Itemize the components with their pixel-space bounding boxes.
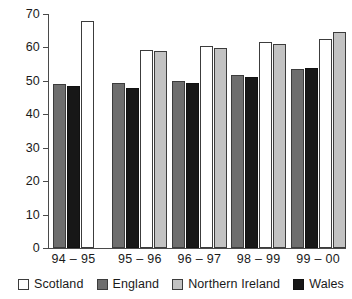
bar-nireland[interactable] [273,44,286,248]
y-tick-mark [43,215,48,216]
bar-nireland[interactable] [333,32,346,248]
bar-wales[interactable] [305,68,318,249]
legend-label: England [113,277,160,291]
bar-scotland[interactable] [81,21,94,248]
bar-group [168,14,227,248]
y-tick-mark [43,47,48,48]
bar-nireland[interactable] [154,51,167,248]
x-axis-category-labels: 94 – 9595 – 9696 – 9798 – 9999 – 00 [49,252,346,270]
bar-scotland[interactable] [259,42,272,248]
legend-swatch-icon [18,279,29,290]
bar-group [108,14,167,248]
y-tick-label: 0 [33,241,40,255]
x-axis-label: 96 – 97 [177,252,221,266]
bar-england[interactable] [172,81,185,248]
bar-nireland[interactable] [214,48,227,248]
bar-group [287,14,346,248]
bar-scotland[interactable] [140,50,153,248]
bar-group [49,14,108,248]
legend-swatch-icon [172,279,183,290]
bar-scotland[interactable] [200,46,213,248]
bar-group [227,14,286,248]
x-axis-line [48,248,346,249]
bar-scotland[interactable] [319,39,332,248]
chart-legend: ScotlandEnglandNorthern IrelandWales [18,274,344,294]
bar-wales[interactable] [67,86,80,248]
legend-item-nireland[interactable]: Northern Ireland [172,277,280,291]
y-tick-mark [43,81,48,82]
x-axis-label: 95 – 96 [118,252,162,266]
bar-england[interactable] [53,84,66,248]
x-axis-label: 99 – 00 [296,252,340,266]
y-tick-label: 30 [26,141,40,155]
legend-item-england[interactable]: England [97,277,160,291]
legend-item-scotland[interactable]: Scotland [18,277,83,291]
y-tick-mark [43,248,48,249]
y-tick-label: 60 [26,40,40,54]
bar-wales[interactable] [245,77,258,248]
y-tick-mark [43,114,48,115]
y-tick-mark [43,181,48,182]
legend-label: Wales [309,277,344,291]
legend-label: Scotland [34,277,83,291]
y-tick-label: 70 [26,7,40,21]
y-tick-mark [43,148,48,149]
legend-item-wales[interactable]: Wales [293,277,344,291]
bar-wales[interactable] [186,83,199,248]
bar-wales[interactable] [126,88,139,248]
bar-england[interactable] [231,75,244,248]
bar-england[interactable] [112,83,125,248]
bar-england[interactable] [291,69,304,249]
bar-chart: 010203040506070 94 – 9595 – 9696 – 9798 … [0,0,352,299]
y-tick-label: 50 [26,74,40,88]
x-axis-label: 94 – 95 [52,252,96,266]
y-tick-label: 40 [26,107,40,121]
legend-swatch-icon [97,279,108,290]
y-tick-mark [43,14,48,15]
y-tick-label: 20 [26,174,40,188]
legend-swatch-icon [293,279,304,290]
legend-label: Northern Ireland [188,277,280,291]
bar-groups [49,14,346,248]
x-axis-label: 98 – 99 [237,252,281,266]
y-tick-label: 10 [26,208,40,222]
